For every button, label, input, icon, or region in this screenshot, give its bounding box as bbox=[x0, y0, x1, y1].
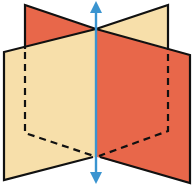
arrow-up-icon bbox=[90, 1, 102, 13]
diagram-canvas bbox=[0, 0, 192, 185]
cream-plane-front-face bbox=[4, 29, 95, 180]
intersecting-planes-diagram bbox=[0, 0, 192, 185]
arrow-down-icon bbox=[90, 172, 102, 184]
